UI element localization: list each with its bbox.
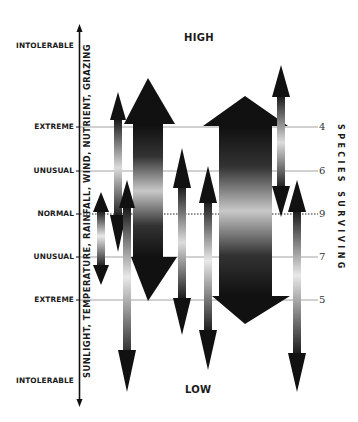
level-unusual-low: UNUSUAL	[4, 252, 74, 261]
range-arrow-9	[288, 180, 306, 392]
range-arrow-6	[199, 166, 217, 370]
range-arrow-1	[93, 192, 109, 285]
level-extreme-high: EXTREME	[4, 122, 74, 131]
species-count-normal: 9	[319, 208, 325, 219]
high-label: HIGH	[184, 32, 214, 43]
level-extreme-low: EXTREME	[4, 295, 74, 304]
level-normal: NORMAL	[4, 209, 74, 218]
range-arrow-4-wide	[124, 78, 177, 301]
range-arrow-8	[272, 65, 290, 217]
species-count-unusual-low: 7	[319, 251, 325, 262]
level-intolerable-high: INTOLERABLE	[4, 41, 74, 50]
level-intolerable-low: INTOLERABLE	[4, 376, 74, 385]
species-count-unusual-high: 6	[319, 165, 325, 176]
level-unusual-high: UNUSUAL	[4, 166, 74, 175]
species-count-extreme-high: 4	[319, 121, 325, 132]
species-count-extreme-low: 5	[319, 294, 325, 305]
left-axis-title: SUNLIGHT, TEMPERATURE, RAINFALL, WIND, N…	[82, 44, 92, 378]
low-label: LOW	[185, 384, 211, 395]
range-arrow-7-huge	[203, 96, 290, 324]
range-arrow-5	[173, 148, 191, 335]
right-axis-title: SPECIES SURVIVING	[336, 124, 345, 272]
